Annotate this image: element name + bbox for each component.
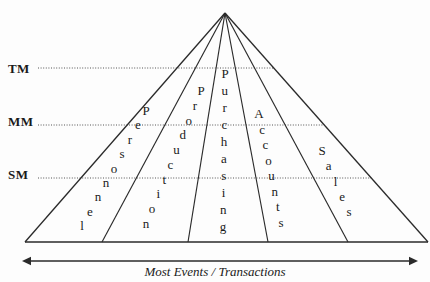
department-letter-personnel-7: e <box>87 204 93 217</box>
department-letter-production-5: c <box>168 157 174 170</box>
department-letter-accounts-3: o <box>265 153 272 166</box>
department-letter-personnel-6: n <box>95 190 102 203</box>
department-letter-production-8: o <box>149 202 156 215</box>
department-letter-purchasing-7: i <box>222 186 226 199</box>
tier-dotted-lines-group <box>38 68 371 178</box>
department-letter-personnel-8: l <box>80 219 84 232</box>
department-letter-purchasing-9: g <box>220 220 227 233</box>
department-letter-production-0: P <box>197 84 204 97</box>
department-letter-accounts-1: c <box>259 122 265 135</box>
pyramid-left-edge <box>25 13 225 242</box>
department-letter-production-2: o <box>186 113 193 126</box>
department-letter-accounts-5: n <box>271 184 278 197</box>
department-letter-sales-1: a <box>326 159 332 172</box>
department-letter-personnel-4: o <box>111 161 118 174</box>
department-letter-purchasing-3: c <box>221 118 227 131</box>
department-letter-sales-4: s <box>346 205 351 218</box>
pyramid-divider-4 <box>225 13 348 242</box>
department-letter-production-6: t <box>163 172 167 185</box>
tier-label-tm: TM <box>8 61 30 77</box>
department-letter-personnel-3: s <box>119 147 124 160</box>
department-letter-sales-3: e <box>339 189 345 202</box>
department-letter-personnel-5: n <box>103 175 110 188</box>
department-letter-production-3: d <box>179 128 186 141</box>
pyramid-diagram-canvas: TM MM SM PersonnelProductionPurchasingAc… <box>0 0 430 282</box>
department-letter-purchasing-4: h <box>221 135 228 148</box>
department-letter-production-9: n <box>143 217 150 230</box>
department-letter-production-7: i <box>156 187 160 200</box>
department-letter-sales-2: l <box>334 174 338 187</box>
department-letter-production-4: u <box>173 143 180 156</box>
department-letter-accounts-6: t <box>276 200 280 213</box>
tier-label-sm: SM <box>8 167 28 183</box>
department-letter-purchasing-0: P <box>221 67 228 80</box>
department-letter-accounts-7: s <box>278 216 283 229</box>
department-letter-purchasing-2: r <box>222 101 226 114</box>
department-letter-purchasing-5: a <box>221 152 227 165</box>
tier-label-mm: MM <box>8 114 33 130</box>
department-letter-accounts-4: u <box>268 169 275 182</box>
department-letter-personnel-2: r <box>128 132 132 145</box>
diagram-caption: Most Events / Transactions <box>0 264 430 280</box>
department-letter-purchasing-6: s <box>221 169 226 182</box>
department-letter-personnel-0: P <box>142 104 149 117</box>
department-letter-accounts-2: c <box>262 138 268 151</box>
department-letter-purchasing-1: u <box>222 84 229 97</box>
department-letter-sales-0: S <box>318 144 325 157</box>
department-letter-purchasing-8: n <box>220 203 227 216</box>
department-letter-accounts-0: A <box>254 107 263 120</box>
pyramid-diagram-svg <box>0 0 430 282</box>
department-letter-production-1: r <box>193 98 197 111</box>
pyramid-right-edge <box>225 13 428 242</box>
department-letter-personnel-1: e <box>135 118 141 131</box>
